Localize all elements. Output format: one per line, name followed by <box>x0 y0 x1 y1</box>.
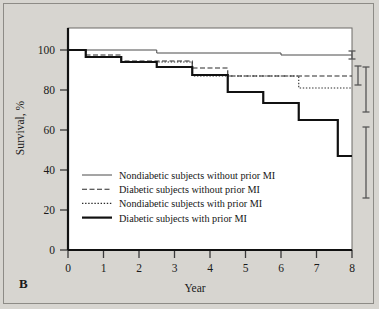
x-tick-label: 3 <box>172 262 178 274</box>
survival-chart: 020406080100 012345678 Nondiabetic subje… <box>0 0 379 309</box>
y-tick-label: 100 <box>38 44 56 56</box>
error-bar-3 <box>363 127 370 198</box>
y-tick-label: 20 <box>44 204 56 216</box>
figure-panel: 020406080100 012345678 Nondiabetic subje… <box>0 0 379 309</box>
y-tick-label: 80 <box>44 84 56 96</box>
y-tick-label: 0 <box>49 244 55 256</box>
error-bar-1 <box>355 66 362 85</box>
legend-label-0: Nondiabetic subjects without prior MI <box>119 170 276 181</box>
y-axis: 020406080100 <box>38 44 68 256</box>
x-tick-label: 8 <box>349 262 355 274</box>
x-tick-label: 0 <box>65 262 71 274</box>
x-tick-label: 7 <box>314 262 320 274</box>
x-axis-title: Year <box>140 282 250 294</box>
legend-label-3: Diabetic subjects with prior MI <box>119 213 247 224</box>
y-tick-label: 60 <box>44 124 56 136</box>
panel-label: B <box>19 276 28 292</box>
x-tick-label: 5 <box>243 262 249 274</box>
x-tick-label: 2 <box>136 262 142 274</box>
legend-label-1: Diabetic subjects without prior MI <box>119 184 261 195</box>
x-tick-label: 4 <box>207 262 213 274</box>
x-axis: 012345678 <box>65 250 355 274</box>
error-bar-2 <box>363 67 370 112</box>
y-axis-title: Survival, % <box>14 86 26 170</box>
x-tick-label: 6 <box>278 262 284 274</box>
x-tick-label: 1 <box>101 262 107 274</box>
y-tick-label: 40 <box>44 164 56 176</box>
legend-label-2: Nondiabetic subjects with prior MI <box>119 198 263 209</box>
